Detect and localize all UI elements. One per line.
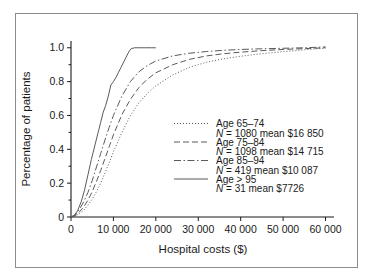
x-ticks-group bbox=[71, 217, 326, 221]
x-axis-title: Hospital costs ($) bbox=[159, 243, 248, 255]
cumulative-distribution-chart: 00.20.40.60.81.0 010 00020 00030 00040 0… bbox=[16, 14, 357, 267]
y-tick-label: 0 bbox=[58, 211, 64, 223]
y-ticklabels-group: 00.20.40.60.81.0 bbox=[49, 41, 64, 222]
x-tick-label: 10 000 bbox=[97, 223, 129, 235]
x-tick-label: 20 000 bbox=[140, 223, 172, 235]
y-tick-label: 1.0 bbox=[49, 41, 64, 53]
series-line-4 bbox=[71, 48, 156, 217]
x-tick-label: 50 000 bbox=[267, 223, 299, 235]
y-tick-label: 0.4 bbox=[49, 143, 64, 155]
chart-legend: Age 65–74N = 1080 mean $16 850Age 75–84N… bbox=[174, 118, 324, 194]
legend-detail-4: N = 31 mean $7726 bbox=[216, 183, 305, 194]
y-axis-title: Percentage of patients bbox=[20, 71, 32, 186]
x-tick-label: 30 000 bbox=[182, 223, 214, 235]
chart-frame: 00.20.40.60.81.0 010 00020 00030 00040 0… bbox=[15, 13, 358, 268]
x-tick-label: 60 000 bbox=[309, 223, 341, 235]
x-tick-label: 0 bbox=[68, 223, 74, 235]
y-tick-label: 0.8 bbox=[49, 75, 64, 87]
x-ticklabels-group: 010 00020 00030 00040 00050 00060 000 bbox=[68, 223, 342, 235]
y-ticks-group bbox=[67, 48, 71, 217]
figure-container: 00.20.40.60.81.0 010 00020 00030 00040 0… bbox=[0, 0, 380, 280]
y-tick-label: 0.2 bbox=[49, 177, 64, 189]
x-tick-label: 40 000 bbox=[225, 223, 257, 235]
y-tick-label: 0.6 bbox=[49, 109, 64, 121]
